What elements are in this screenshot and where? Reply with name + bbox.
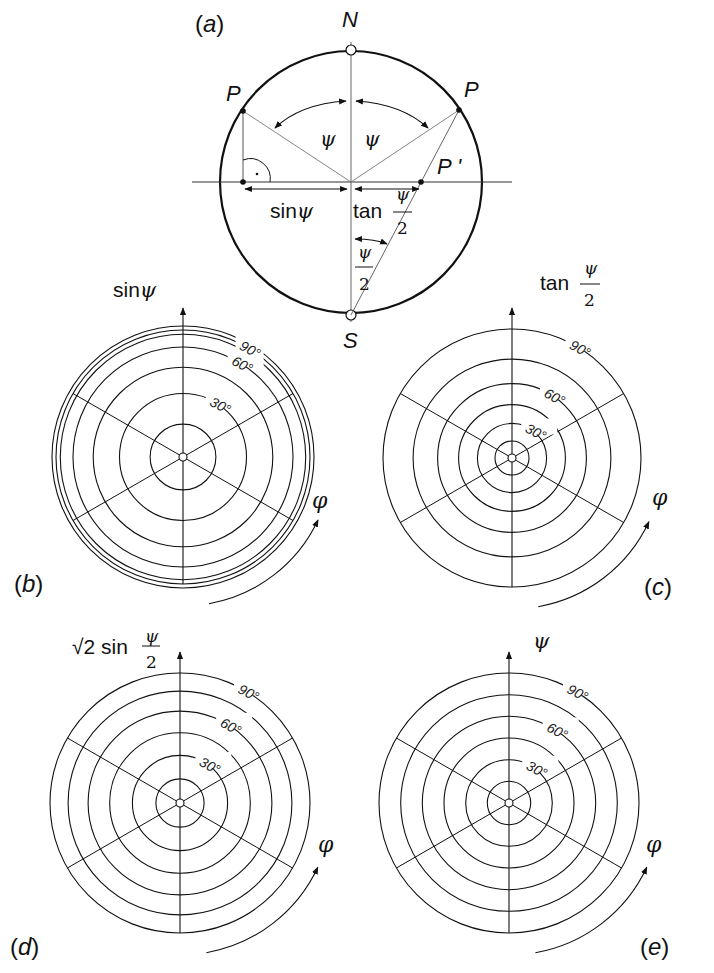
p-prime-label: P ' bbox=[437, 154, 462, 179]
panel-label-c: (c) bbox=[644, 573, 672, 600]
polar-grid-b: 30°60°90°φ bbox=[52, 308, 328, 604]
tan-half-psi-label: tan bbox=[353, 199, 382, 222]
svg-text:2: 2 bbox=[584, 290, 595, 310]
north-label: N bbox=[342, 7, 358, 32]
center-marker bbox=[505, 799, 513, 807]
psi-left-label: ψ bbox=[320, 127, 336, 151]
point-p-left-label: P bbox=[226, 81, 241, 106]
angle-arrow-left bbox=[275, 101, 346, 128]
polar-grids: 30°60°90°φ30°60°90°φ30°60°90°φ30°60°90°φ bbox=[50, 308, 668, 953]
point-p-prime bbox=[418, 179, 424, 185]
polar-grid-c: 30°60°90°φ bbox=[383, 308, 668, 607]
svg-text:ψ: ψ bbox=[584, 258, 598, 278]
azimuth-label: φ bbox=[318, 832, 334, 857]
axis-label-d: √2 sin bbox=[72, 635, 128, 658]
figure-canvas: (a) N S P P P ' ψ ψ sinψ tan ψ 2 ψ 2 30°… bbox=[0, 0, 714, 973]
axis-label-c: tan bbox=[540, 271, 569, 294]
svg-text:ψ: ψ bbox=[396, 184, 410, 204]
sin-psi-label: sinψ bbox=[270, 199, 314, 223]
panel-label-e: (e) bbox=[640, 933, 669, 960]
panel-label-a: (a) bbox=[195, 10, 224, 37]
panel-a: (a) N S P P P ' ψ ψ sinψ tan ψ 2 ψ 2 bbox=[192, 7, 512, 353]
half-psi-num: ψ bbox=[358, 242, 372, 262]
azimuth-arrow bbox=[538, 522, 649, 607]
axis-label-e: ψ bbox=[533, 629, 550, 653]
center-marker bbox=[179, 453, 187, 461]
svg-text:2: 2 bbox=[146, 652, 157, 672]
point-p-right-label: P bbox=[464, 77, 479, 102]
azimuth-label: φ bbox=[312, 488, 328, 513]
svg-text:ψ: ψ bbox=[145, 626, 159, 646]
azimuth-label: φ bbox=[646, 832, 662, 857]
right-angle-mark bbox=[243, 159, 270, 182]
center-marker bbox=[176, 799, 184, 807]
polar-grid-d: 30°60°90°φ bbox=[50, 652, 334, 953]
azimuth-arrow bbox=[206, 867, 317, 953]
center-marker bbox=[508, 454, 516, 462]
axis-label-b: sinψ bbox=[113, 278, 157, 302]
half-psi-den: 2 bbox=[359, 274, 370, 294]
angle-arrow-right bbox=[356, 101, 428, 128]
north-pole-marker bbox=[346, 45, 356, 55]
panel-label-d: (d) bbox=[10, 933, 39, 960]
point-p-left bbox=[240, 108, 246, 114]
azimuth-arrow bbox=[535, 867, 646, 953]
panel-label-b: (b) bbox=[14, 570, 43, 597]
polar-grid-e: 30°60°90°φ bbox=[379, 652, 662, 953]
south-label: S bbox=[343, 328, 358, 353]
psi-right-label: ψ bbox=[364, 127, 380, 151]
svg-text:2: 2 bbox=[397, 218, 408, 238]
azimuth-label: φ bbox=[652, 485, 668, 510]
point-p-right bbox=[456, 107, 462, 113]
